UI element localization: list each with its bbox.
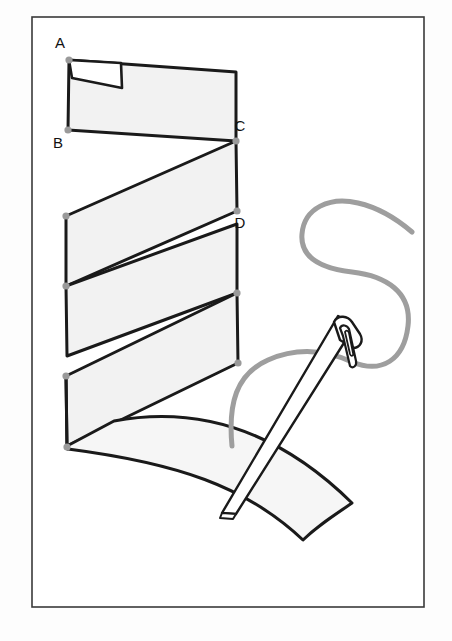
vertex-label-b: B <box>53 134 63 151</box>
vertex-label-c: C <box>235 117 246 134</box>
vertex-dot-a <box>65 56 72 63</box>
vertex-label-d: D <box>235 214 246 231</box>
vertex-dot-right-mid-upper <box>233 289 240 296</box>
vertex-dot-c <box>232 137 239 144</box>
vertex-dot-left-mid-lower <box>62 282 69 289</box>
vertex-dot-left-mid-upper <box>62 212 69 219</box>
vertex-dot-right-mid-lower <box>234 359 241 366</box>
vertex-label-a: A <box>55 34 65 51</box>
figure-container: A B C D <box>0 0 452 641</box>
vertex-dot-left-low-lower <box>63 443 70 450</box>
needle-tip <box>220 513 236 519</box>
vertex-dot-left-low-upper <box>62 372 69 379</box>
diagram-canvas: A B C D <box>0 0 452 641</box>
vertex-dot-b <box>64 126 71 133</box>
strip-edge-lower-left <box>66 376 67 449</box>
